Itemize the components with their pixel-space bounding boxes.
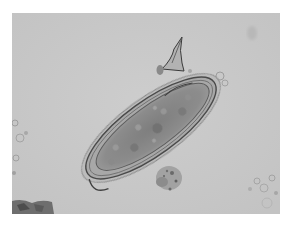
spine-blob bbox=[157, 65, 164, 75]
microscopy-image bbox=[12, 13, 280, 214]
microscopy-field bbox=[12, 13, 280, 214]
smudge bbox=[247, 26, 257, 40]
